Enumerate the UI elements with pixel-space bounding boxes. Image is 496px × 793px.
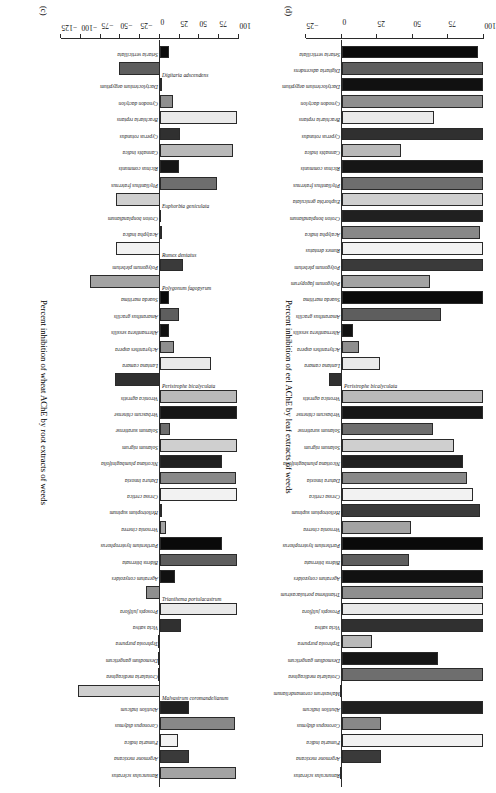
bar-category-label: Heliotropium supinum [291, 510, 339, 516]
bar-category-label: Bidens biternata [304, 559, 340, 565]
bar-category-label: Vicia sativa [133, 624, 158, 630]
bar [342, 46, 479, 59]
bar-category-label: Polygonum fagopyrum [290, 280, 339, 286]
y-tick-label: −50 [121, 21, 133, 30]
bar [160, 603, 237, 616]
y-tick-label: 25 [180, 19, 188, 28]
bar [160, 177, 217, 190]
bar-category-label: Cyperus rotundus [120, 133, 158, 139]
bar-category-label: Desmodium gangeticum [106, 657, 158, 663]
y-tick-label: −25 [141, 21, 153, 30]
bar [160, 570, 175, 583]
y-tick [218, 34, 219, 38]
y-tick [238, 34, 239, 38]
bar-category-label: Prosopis juliflora [302, 608, 340, 614]
bar [160, 521, 166, 534]
bar-category-label: Alternanthera sessilis [293, 330, 340, 336]
bar [342, 750, 382, 763]
bar-category-label: Cannabis indica [122, 149, 158, 155]
y-tick-label: 0 [160, 17, 164, 26]
bar [342, 423, 433, 436]
bar [158, 668, 160, 681]
bar [342, 554, 409, 567]
bar [342, 177, 483, 190]
bar-category-label: Datura innoxia [125, 477, 158, 483]
bar [342, 472, 467, 485]
bar-category-label: Ricinus communis [119, 166, 158, 172]
bar [160, 357, 211, 370]
bar-category-label: Cannabis indica [304, 149, 340, 155]
y-tick [483, 34, 484, 38]
bar-category-label: Amaranthus gracilis [295, 313, 339, 319]
bar [342, 341, 359, 354]
y-tick-label: −125 [62, 23, 78, 32]
bar-category-label: Ranunculus scleratus [112, 772, 158, 778]
bar [160, 504, 162, 517]
y-tick-label: 0 [342, 17, 346, 26]
bar [342, 717, 382, 730]
bar [342, 635, 372, 648]
bar-category-label: Ageratum conyzoides [112, 575, 158, 581]
bar-series-c: Setaria verticillataDigitaria adscendens… [61, 40, 239, 787]
bar [160, 111, 237, 124]
bar-category-label: Abutilon indicum [121, 706, 158, 712]
bar-category-label: Verbascum chinense [114, 412, 158, 418]
bar [116, 193, 160, 206]
bar-category-label: Vicia sativa [314, 624, 339, 630]
bar [160, 78, 162, 91]
bar-category-label: Achyranthes aspera [115, 346, 158, 352]
bar-category-label: Dactyloctenium aegyptium [100, 84, 158, 90]
bar [342, 504, 480, 517]
bar [116, 242, 160, 255]
bar-category-label: Acalypha indica [123, 231, 158, 237]
y-tick-label: 50 [200, 19, 208, 28]
bar-category-label: Brachiaria reptans [299, 117, 340, 123]
bar [160, 537, 222, 550]
bar-category-label: Solanum nigrum [122, 444, 158, 450]
bar [160, 455, 222, 468]
y-tick [305, 34, 306, 38]
bar-category-label: Heliotropium supinum [109, 510, 157, 516]
bar-category-label: Phyllanthus fraternus [111, 182, 158, 188]
axis-title-d: Percent inhibition of eel AChE by leaf e… [284, 300, 294, 494]
bar-category-label: Ranunculus scleratus [293, 772, 339, 778]
bar [160, 259, 183, 272]
bar-category-label: Polygonum plebeium [294, 264, 340, 270]
y-tick-label: 100 [485, 21, 496, 30]
bar [160, 144, 233, 157]
bar [160, 308, 179, 321]
chart-panel-c: Setaria verticillataDigitaria adscendens… [0, 0, 245, 793]
bar [159, 210, 161, 223]
bar [342, 521, 412, 534]
bar-category-label: Cressa cretica [127, 493, 158, 499]
bar [342, 128, 483, 141]
bar-category-label: Rumex dentatus [305, 248, 339, 254]
bar [342, 701, 483, 714]
bar-category-label: Alternanthera sessilis [111, 330, 158, 336]
bar [160, 226, 162, 239]
bar [78, 685, 160, 698]
bar-category-label: Bidens biternata [122, 559, 158, 565]
bar-category-label: Lantana camara [122, 362, 158, 368]
y-tick [198, 34, 199, 38]
bar [329, 373, 342, 386]
bar-category-label: Parthenium hysterophorus [282, 543, 339, 549]
y-tick [412, 34, 413, 38]
bar [160, 750, 189, 763]
y-tick-label: −75 [101, 21, 113, 30]
bar [342, 439, 454, 452]
bar [342, 78, 483, 91]
bar-category-label: Solanum nigrum [304, 444, 340, 450]
y-tick [100, 34, 101, 38]
bar [342, 62, 483, 75]
y-tick [341, 34, 342, 38]
bar [158, 652, 160, 665]
bar [160, 406, 237, 419]
bar-category-label: Fumaria indica [306, 739, 340, 745]
bar-category-label: Trianthema portulacastrum [280, 592, 339, 598]
bar [342, 537, 483, 550]
bar-category-label: Croton bonplandianum [289, 215, 339, 221]
axis-title-c: Percent inhibition of wheat AChE by root… [39, 300, 49, 505]
bar-category-label: Lantana camara [304, 362, 340, 368]
bar-category-label: Cyperus rotundus [301, 133, 339, 139]
